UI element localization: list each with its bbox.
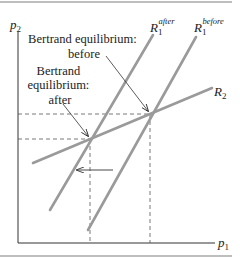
pointer-after-icon bbox=[63, 104, 88, 136]
x-axis-label: p1 bbox=[217, 235, 229, 252]
bertrand-diagram: p2 p1 R1after R1before R2 Bertrand equil… bbox=[0, 0, 240, 258]
curve-r1-after bbox=[50, 35, 153, 210]
annotation-after: Bertrand equilibrium: after bbox=[28, 64, 93, 107]
label-r1-before: R1before bbox=[193, 16, 224, 37]
label-r2: R2 bbox=[213, 84, 226, 101]
label-r1-after: R1after bbox=[149, 16, 175, 37]
annotation-before: Bertrand equilibrium: before bbox=[28, 32, 140, 61]
y-axis-label: p2 bbox=[9, 17, 21, 34]
